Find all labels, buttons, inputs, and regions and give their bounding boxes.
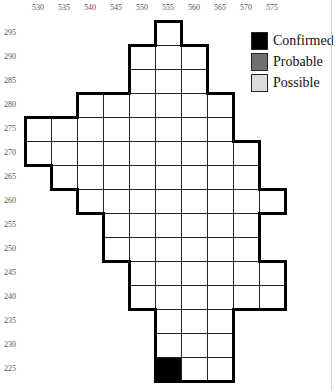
outline-edge — [206, 44, 209, 71]
grid-cell — [181, 141, 208, 166]
y-tick-label: 235 — [4, 316, 24, 325]
grid-cell — [103, 189, 130, 214]
outline-edge — [76, 188, 79, 215]
outline-edge — [128, 44, 131, 71]
x-tick-label: 530 — [25, 3, 51, 12]
grid-cell — [181, 213, 208, 238]
grid-cell — [181, 117, 208, 142]
grid-cell — [181, 93, 208, 118]
outline-edge — [206, 68, 209, 95]
grid-cell — [77, 189, 104, 214]
outline-edge — [206, 380, 235, 383]
grid-cell — [155, 69, 182, 94]
legend-swatch-possible — [251, 74, 268, 92]
grid-cell — [129, 45, 156, 70]
y-tick-label: 255 — [4, 220, 24, 229]
grid-cell — [207, 93, 234, 118]
grid-cell — [181, 45, 208, 70]
grid-cell — [155, 93, 182, 118]
outline-edge — [258, 140, 261, 167]
grid-cell — [25, 117, 52, 142]
grid-cell — [155, 309, 182, 334]
grid-cell — [129, 69, 156, 94]
outline-edge — [258, 236, 261, 263]
grid-cell — [77, 93, 104, 118]
grid-cell — [129, 189, 156, 214]
x-tick-label: 555 — [155, 3, 181, 12]
grid-cell — [77, 141, 104, 166]
outline-edge — [180, 44, 209, 47]
outline-edge — [284, 284, 287, 311]
grid-cell — [207, 237, 234, 262]
y-tick-label: 295 — [4, 28, 24, 37]
grid-cell — [103, 213, 130, 238]
grid-cell — [155, 21, 182, 46]
grid-cell — [103, 237, 130, 262]
outline-edge — [102, 260, 131, 263]
grid-cell — [233, 213, 260, 238]
outline-edge — [24, 116, 27, 143]
outline-edge — [232, 92, 235, 119]
x-tick-label: 560 — [181, 3, 207, 12]
grid-cell — [181, 165, 208, 190]
outline-edge — [154, 356, 157, 383]
grid-cell — [155, 285, 182, 310]
grid-cell — [129, 237, 156, 262]
grid-cell — [155, 117, 182, 142]
grid-cell — [103, 165, 130, 190]
grid-cell — [155, 165, 182, 190]
y-tick-label: 275 — [4, 124, 24, 133]
outline-edge — [232, 356, 235, 383]
grid-cell — [77, 165, 104, 190]
grid-cell — [233, 237, 260, 262]
grid-cell — [129, 141, 156, 166]
grid-cell — [155, 213, 182, 238]
grid-cell — [207, 213, 234, 238]
grid-cell — [207, 261, 234, 286]
right-border-line — [331, 0, 332, 390]
grid-cell — [181, 285, 208, 310]
legend-label-confirmed: Confirmed — [273, 32, 334, 50]
outline-edge — [180, 20, 183, 47]
outline-edge — [76, 212, 105, 215]
grid-cell — [181, 69, 208, 94]
grid-cell — [155, 141, 182, 166]
outline-edge — [128, 284, 131, 311]
outline-edge — [232, 332, 235, 359]
grid-cell — [207, 357, 234, 382]
grid-cell — [103, 117, 130, 142]
grid-cell — [259, 285, 286, 310]
outline-edge — [24, 116, 53, 119]
outline-edge — [154, 332, 157, 359]
outline-edge — [102, 236, 105, 263]
outline-edge — [232, 116, 235, 143]
x-tick-label: 535 — [51, 3, 77, 12]
y-tick-label: 240 — [4, 292, 24, 301]
outline-edge — [284, 188, 287, 215]
grid-cell — [181, 357, 208, 382]
y-tick-label: 225 — [4, 364, 24, 373]
grid-cell — [51, 117, 78, 142]
grid-cell — [155, 261, 182, 286]
outline-edge — [206, 92, 235, 95]
grid-cell — [233, 261, 260, 286]
outline-edge — [76, 92, 105, 95]
y-tick-label: 285 — [4, 76, 24, 85]
grid-cell — [207, 165, 234, 190]
outline-edge — [50, 164, 53, 191]
outline-edge — [24, 164, 53, 167]
grid-cell — [155, 333, 182, 358]
y-tick-label: 290 — [4, 52, 24, 61]
grid-cell — [129, 93, 156, 118]
grid-cell — [181, 333, 208, 358]
grid-cell — [207, 309, 234, 334]
grid-cell — [259, 189, 286, 214]
outline-edge — [154, 20, 157, 47]
grid-cell — [103, 93, 130, 118]
x-tick-label: 575 — [259, 3, 285, 12]
outline-edge — [258, 188, 287, 191]
outline-edge — [128, 68, 131, 95]
outline-edge — [50, 116, 79, 119]
grid-cell — [181, 237, 208, 262]
grid-cell — [207, 141, 234, 166]
